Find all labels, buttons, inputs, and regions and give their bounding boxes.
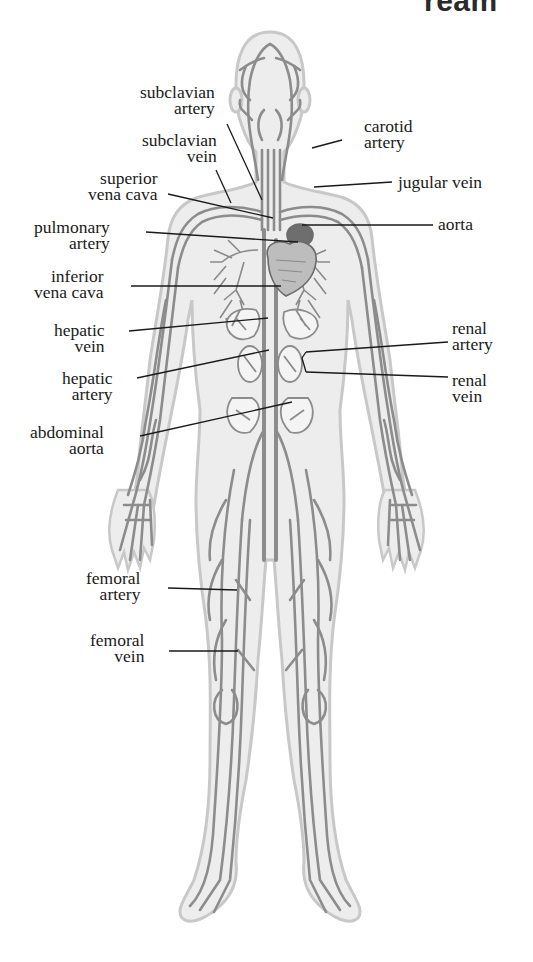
label-aorta: aorta xyxy=(438,216,473,232)
label-superior-vena-cava: superior vena cava xyxy=(88,170,157,202)
label-line: vein xyxy=(452,388,487,404)
label-femoral-artery: femoral artery xyxy=(86,570,140,602)
label-line: artery xyxy=(34,235,110,251)
label-hepatic-vein: hepatic vein xyxy=(54,322,105,354)
label-line: vein xyxy=(90,648,144,664)
label-inferior-vena-cava: inferior vena cava xyxy=(34,268,103,300)
label-hepatic-artery: hepatic artery xyxy=(62,370,113,402)
label-line: artery xyxy=(62,386,113,402)
label-abdominal-aorta: abdominal aorta xyxy=(30,424,104,456)
label-subclavian-vein: subclavian vein xyxy=(142,132,217,164)
label-line: artery xyxy=(86,586,140,602)
label-line: artery xyxy=(140,100,215,116)
label-femoral-vein: femoral vein xyxy=(90,632,144,664)
label-jugular-vein: jugular vein xyxy=(398,174,482,190)
label-line: jugular vein xyxy=(398,174,482,190)
circulatory-system-figure xyxy=(0,0,533,962)
label-line: artery xyxy=(364,134,413,150)
label-line: vein xyxy=(54,338,105,354)
label-line: aorta xyxy=(438,216,473,232)
label-line: artery xyxy=(452,336,493,352)
label-line: vena cava xyxy=(88,186,157,202)
label-renal-vein: renal vein xyxy=(452,372,487,404)
label-carotid-artery: carotid artery xyxy=(364,118,413,150)
body-silhouette xyxy=(130,32,411,921)
label-subclavian-artery: subclavian artery xyxy=(140,84,215,116)
label-line: vena cava xyxy=(34,284,103,300)
label-line: aorta xyxy=(30,440,104,456)
label-pulmonary-artery: pulmonary artery xyxy=(34,219,110,251)
label-renal-artery: renal artery xyxy=(452,320,493,352)
label-line: vein xyxy=(142,148,217,164)
